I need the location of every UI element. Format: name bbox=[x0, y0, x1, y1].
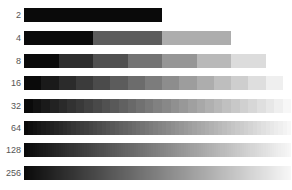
gray-segment bbox=[24, 8, 162, 22]
gray-segment bbox=[110, 76, 127, 90]
strip-row-32: 32 bbox=[0, 99, 291, 113]
gray-segment bbox=[231, 99, 240, 113]
gray-segment bbox=[197, 76, 214, 90]
gray-segment bbox=[214, 99, 223, 113]
quantized-ramp-bar bbox=[24, 8, 291, 22]
quantized-ramp-bar bbox=[24, 143, 291, 157]
gray-segment bbox=[197, 54, 232, 68]
strip-row-64: 64 bbox=[0, 121, 291, 135]
level-label: 16 bbox=[11, 76, 21, 90]
gray-segment bbox=[162, 54, 197, 68]
quantized-ramp-bar bbox=[24, 31, 291, 45]
gray-segment bbox=[153, 99, 162, 113]
gray-segment bbox=[50, 99, 59, 113]
gray-segment bbox=[231, 31, 291, 45]
gray-segment bbox=[188, 99, 197, 113]
gray-segment bbox=[59, 99, 68, 113]
gray-segment bbox=[93, 54, 128, 68]
gray-segment bbox=[162, 99, 171, 113]
gray-segment bbox=[171, 99, 180, 113]
gray-segment bbox=[128, 99, 137, 113]
gray-segment bbox=[24, 76, 41, 90]
gray-segment bbox=[274, 99, 283, 113]
strip-row-256: 256 bbox=[0, 166, 291, 180]
gray-segment bbox=[24, 54, 59, 68]
gray-segment bbox=[119, 99, 128, 113]
gray-segment bbox=[266, 99, 275, 113]
gray-segment bbox=[248, 99, 257, 113]
gray-segment bbox=[162, 76, 179, 90]
level-label: 8 bbox=[16, 54, 21, 68]
gray-segment bbox=[162, 31, 231, 45]
gray-segment bbox=[266, 76, 283, 90]
gray-segment bbox=[93, 31, 162, 45]
gray-segment bbox=[84, 99, 93, 113]
gray-segment bbox=[222, 99, 231, 113]
gray-segment bbox=[93, 76, 110, 90]
gray-segment bbox=[76, 99, 85, 113]
gray-segment bbox=[283, 76, 291, 90]
gray-segment bbox=[283, 99, 291, 113]
gray-segment bbox=[128, 54, 163, 68]
level-label: 4 bbox=[16, 31, 21, 45]
strip-row-16: 16 bbox=[0, 76, 291, 90]
gray-segment bbox=[231, 76, 248, 90]
gray-segment bbox=[102, 99, 111, 113]
gray-segment bbox=[205, 99, 214, 113]
gray-segment bbox=[128, 76, 145, 90]
strip-row-2: 2 bbox=[0, 8, 291, 22]
gray-segment bbox=[76, 76, 93, 90]
gray-segment bbox=[145, 76, 162, 90]
gray-segment bbox=[24, 31, 93, 45]
gray-segment bbox=[59, 76, 76, 90]
gray-segment bbox=[93, 99, 102, 113]
quantized-ramp-bar bbox=[24, 166, 291, 180]
gray-segment bbox=[33, 99, 42, 113]
strip-row-8: 8 bbox=[0, 54, 291, 68]
gray-segment bbox=[162, 8, 291, 22]
gray-segment bbox=[248, 76, 265, 90]
gray-segment bbox=[136, 99, 145, 113]
gray-segment bbox=[231, 54, 266, 68]
level-label: 32 bbox=[11, 99, 21, 113]
gray-segment bbox=[179, 76, 196, 90]
level-label: 256 bbox=[6, 166, 21, 180]
gray-segment bbox=[197, 99, 206, 113]
gray-segment bbox=[214, 76, 231, 90]
gray-segment bbox=[240, 99, 249, 113]
gray-segment bbox=[59, 54, 94, 68]
quantized-ramp-bar bbox=[24, 76, 291, 90]
gray-segment bbox=[41, 76, 58, 90]
gray-segment bbox=[179, 99, 188, 113]
gray-segment bbox=[110, 99, 119, 113]
level-label: 64 bbox=[11, 121, 21, 135]
quantized-ramp-bar bbox=[24, 54, 291, 68]
gray-segment bbox=[145, 99, 154, 113]
gray-segment bbox=[41, 99, 50, 113]
gray-segment bbox=[24, 99, 33, 113]
strip-row-4: 4 bbox=[0, 31, 291, 45]
strip-row-128: 128 bbox=[0, 143, 291, 157]
quantized-ramp-bar bbox=[24, 99, 291, 113]
quantized-ramp-bar bbox=[24, 121, 291, 135]
gray-segment bbox=[67, 99, 76, 113]
gray-segment bbox=[266, 54, 292, 68]
level-label: 2 bbox=[16, 8, 21, 22]
gray-segment bbox=[257, 99, 266, 113]
level-label: 128 bbox=[6, 143, 21, 157]
